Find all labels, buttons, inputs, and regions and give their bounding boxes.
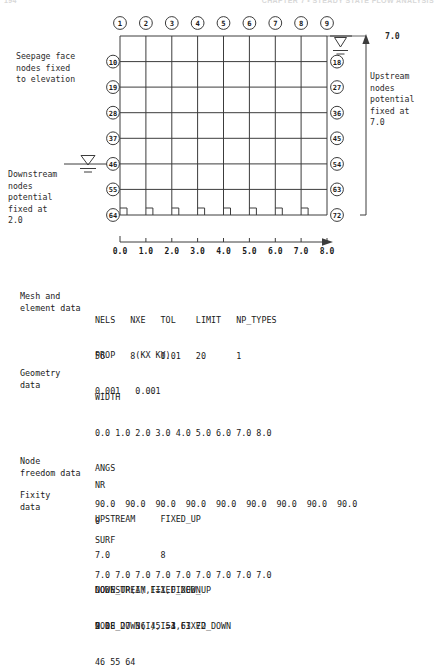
node-label: 1	[118, 19, 122, 28]
node-down-block: NODE_DOWN(I),I=1,FIXED_DOWN 46 55 64	[0, 597, 439, 669]
running-head: CHAPTER 7 • STEADY STATE FLOW ANALYSIS	[262, 0, 434, 4]
node-down-body: NODE_DOWN(I),I=1,FIXED_DOWN 46 55 64	[95, 597, 439, 669]
node-label: 8	[299, 19, 303, 28]
geometry-width-values: 0.0 1.0 2.0 3.0 4.0 5.0 6.0 7.0 8.0	[95, 428, 439, 440]
x-tick-label: 5.0	[242, 247, 257, 256]
x-axis	[120, 236, 333, 246]
mesh-diagram-svg: 0.0 1.0 2.0 3.0 4.0 5.0 6.0 7.0 8.0 1 2 …	[0, 9, 439, 269]
node-label: 7	[273, 19, 277, 28]
base-fixity-supports	[120, 208, 308, 215]
head-value-label: 7.0	[385, 31, 400, 43]
node-label: 5	[221, 19, 225, 28]
node-label: 19	[109, 84, 117, 92]
node-down-values: 46 55 64	[95, 657, 439, 669]
right-node-markers: 18 27 36 45 54 63 72	[331, 55, 344, 221]
node-label: 46	[109, 161, 117, 169]
data-listing: Mesh and element data NELS NXE TOL LIMIT…	[0, 269, 439, 634]
node-label: 55	[109, 186, 117, 194]
page-header: 194 CHAPTER 7 • STEADY STATE FLOW ANALYS…	[0, 0, 439, 9]
x-axis-tick-labels: 0.0 1.0 2.0 3.0 4.0 5.0 6.0 7.0 8.0	[113, 247, 335, 256]
upstream-annotation: Upstream nodes potential fixed at 7.0	[370, 71, 414, 129]
mesh-figure: 0.0 1.0 2.0 3.0 4.0 5.0 6.0 7.0 8.0 1 2 …	[0, 9, 439, 269]
x-tick-label: 7.0	[294, 247, 309, 256]
seepage-face-annotation: Seepage face nodes fixed to elevation	[16, 51, 75, 86]
node-down-header: NODE_DOWN(I),I=1,FIXED_DOWN	[95, 621, 439, 633]
node-label: 64	[109, 212, 117, 220]
node-label: 9	[325, 19, 329, 28]
page-folio: 194	[4, 0, 17, 4]
mesh-data-headers: NELS NXE TOL LIMIT NP_TYPES	[95, 315, 439, 327]
x-tick-label: 0.0	[113, 247, 128, 256]
x-tick-label: 4.0	[216, 247, 231, 256]
node-label: 63	[333, 186, 341, 194]
node-label: 54	[333, 161, 341, 169]
x-tick-label: 8.0	[320, 247, 335, 256]
node-down-label	[20, 597, 95, 669]
node-label: 3	[170, 19, 174, 28]
prop-data-headers: PROP (KX KY)	[95, 350, 439, 362]
mesh-vertical-lines	[120, 36, 327, 215]
node-label: 72	[333, 212, 341, 220]
x-tick-label: 2.0	[165, 247, 180, 256]
x-tick-label: 3.0	[190, 247, 205, 256]
downstream-headers: DOWNSTREAM FIXED_DOWN	[95, 585, 439, 597]
x-tick-label: 6.0	[268, 247, 283, 256]
node-label: 2	[144, 19, 148, 28]
node-label: 36	[333, 110, 341, 118]
node-label: 45	[333, 135, 341, 143]
top-node-markers: 1 2 3 4 5 6 7 8 9	[114, 17, 334, 30]
node-label: 28	[109, 110, 117, 118]
node-label: 27	[333, 84, 341, 92]
fixity-upstream-headers: UPSTREAM FIXED_UP	[95, 514, 439, 526]
node-label: 6	[247, 19, 251, 28]
geometry-width-header: WIDTH	[95, 392, 439, 404]
node-label: 4	[195, 19, 199, 28]
left-node-markers: 10 19 28 37 46 55 64	[107, 55, 120, 221]
upstream-water-table-icon	[330, 36, 352, 54]
node-label: 10	[109, 59, 117, 67]
x-tick-label: 1.0	[139, 247, 154, 256]
node-label: 37	[109, 135, 117, 143]
downstream-annotation: Downstream nodes potential fixed at 2.0	[8, 169, 57, 227]
fixity-upstream-values: 7.0 8	[95, 550, 439, 562]
node-label: 18	[333, 59, 341, 67]
